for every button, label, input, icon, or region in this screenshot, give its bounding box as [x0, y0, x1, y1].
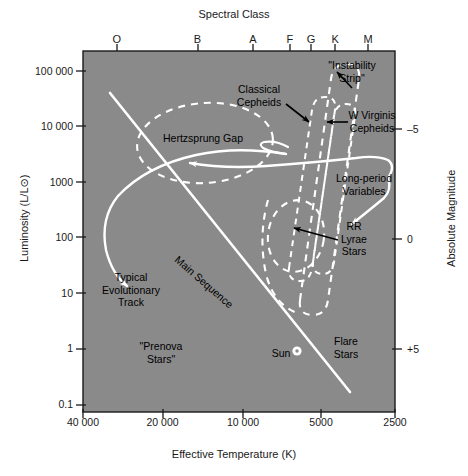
annotation-prenova-stars: "Prenova Stars" [140, 340, 183, 365]
annotation-flare-stars: Flare Stars [334, 335, 359, 360]
sun-marker [292, 346, 301, 355]
annotation-w-virginis-cepheids: W Virginis Cepheids [348, 109, 395, 134]
plot-canvas [0, 0, 468, 476]
annotation-sun: Sun [272, 347, 291, 360]
annotation-instability-strip: "Instability Strip" [328, 59, 376, 84]
top-tick-marks [117, 44, 368, 51]
annotation-hertzsprung-gap: Hertzsprung Gap [163, 132, 243, 145]
annotation-typical-evolutionary-track: Typical Evolutionary Track [102, 271, 160, 309]
annotation-rr-lyrae-stars: RR Lyrae Stars [341, 220, 367, 258]
annotation-long-period-variables: Long-period Variables [336, 172, 392, 197]
annotation-classical-cepheids: Classical Cepheids [237, 83, 281, 108]
hr-diagram-figure: Spectral Class Effective Temperature (K)… [0, 0, 468, 476]
